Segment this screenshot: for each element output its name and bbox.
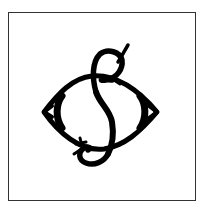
s-spine: [96, 92, 113, 154]
ring-stroke: [44, 76, 157, 149]
top-loop: [93, 51, 122, 92]
monogram-glyph: [0, 0, 209, 208]
